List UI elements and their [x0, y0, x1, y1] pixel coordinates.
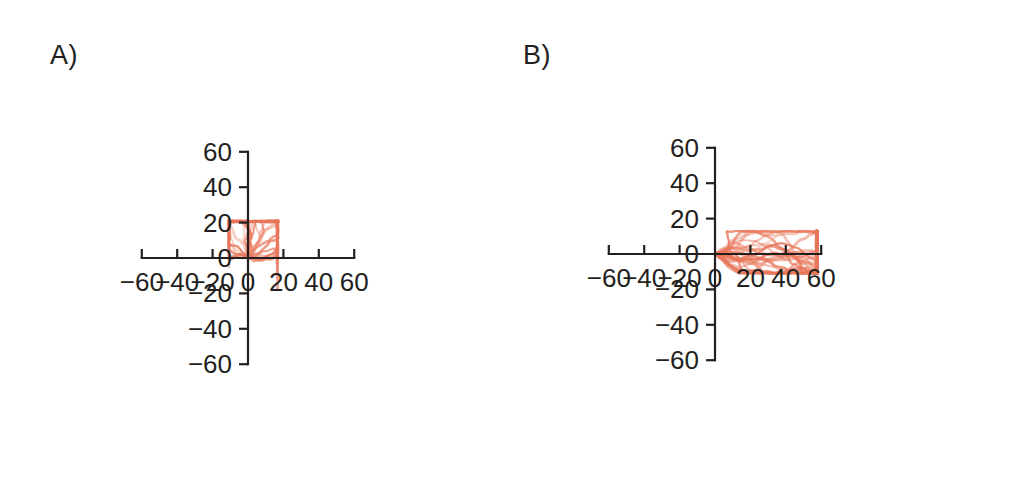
axes-group: −60−40−200204060−60−40−200204060 — [120, 137, 369, 379]
y-tick-label: −60 — [655, 345, 699, 375]
x-tick-label: 40 — [771, 263, 800, 293]
y-tick-label: −40 — [655, 310, 699, 340]
trajectory-group — [715, 231, 818, 273]
y-tick-label: 60 — [670, 133, 699, 163]
y-tick-label: 40 — [203, 172, 232, 202]
panel-b: B) −60−40−200204060−60−40−200204060 — [513, 0, 1033, 491]
y-tick-label: 0 — [685, 239, 699, 269]
y-tick-label: 40 — [670, 168, 699, 198]
axes-group: −60−40−200204060−60−40−200204060 — [587, 133, 836, 375]
y-tick-label: −20 — [188, 278, 232, 308]
y-tick-label: 60 — [203, 137, 232, 167]
y-tick-label: 0 — [218, 243, 232, 273]
y-tick-label: −60 — [188, 349, 232, 379]
x-tick-label: 40 — [304, 267, 333, 297]
x-tick-label: 60 — [340, 267, 369, 297]
panel-b-plot: −60−40−200204060−60−40−200204060 — [513, 0, 1033, 491]
y-tick-label: −40 — [188, 314, 232, 344]
panel-a: A) −60−40−200204060−60−40−200204060 — [0, 0, 513, 491]
y-tick-label: 20 — [670, 204, 699, 234]
y-tick-label: −20 — [655, 274, 699, 304]
x-tick-label: 20 — [736, 263, 765, 293]
x-tick-label: 20 — [269, 267, 298, 297]
y-tick-label: 20 — [203, 208, 232, 238]
panel-a-plot: −60−40−200204060−60−40−200204060 — [0, 0, 513, 491]
x-tick-label: 60 — [807, 263, 836, 293]
figure-root: A) −60−40−200204060−60−40−200204060 B) −… — [0, 0, 1033, 491]
